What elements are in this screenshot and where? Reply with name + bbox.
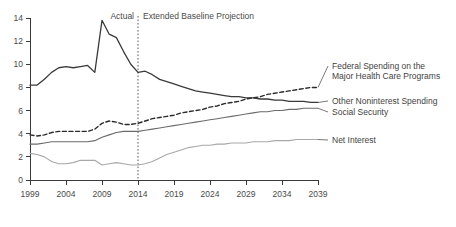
series-lines <box>30 20 318 165</box>
legend-label-1: Federal Spending on the <box>332 61 425 71</box>
x-axis: 199920042009201420192024202920342039 <box>21 180 328 199</box>
legend-label-1: Major Health Care Programs <box>332 71 440 81</box>
y-tick-label: 0 <box>18 175 23 185</box>
y-tick-label: 4 <box>18 129 23 139</box>
legend-leader-line-1 <box>318 66 328 87</box>
chart-container: 02468101214 1999200420092014201920242029… <box>0 0 456 227</box>
x-tick-label: 2004 <box>57 189 76 199</box>
projection-period-label: Extended Baseline Projection <box>143 11 254 21</box>
legend-label-3: Net Interest <box>332 135 377 145</box>
series-line-0 <box>30 20 318 102</box>
x-tick-label: 2039 <box>309 189 328 199</box>
x-tick-label: 2024 <box>201 189 220 199</box>
y-tick-label: 14 <box>14 13 24 23</box>
series-legend: Federal Spending on theMajor Health Care… <box>318 61 440 145</box>
x-tick-label: 2009 <box>93 189 112 199</box>
y-tick-label: 8 <box>18 82 23 92</box>
y-tick-label: 2 <box>18 152 23 162</box>
legend-leader-line-2 <box>318 108 328 112</box>
y-tick-label: 10 <box>14 59 24 69</box>
x-tick-label: 2014 <box>129 189 148 199</box>
legend-leader-line-3 <box>318 140 328 141</box>
legend-leader-line-0 <box>318 101 328 102</box>
series-line-2 <box>30 108 318 144</box>
legend-label-2: Social Security <box>332 107 389 117</box>
x-tick-label: 2029 <box>237 189 256 199</box>
x-tick-label: 2019 <box>165 189 184 199</box>
actual-period-label: Actual <box>110 11 134 21</box>
series-line-1 <box>30 87 318 136</box>
x-tick-label: 1999 <box>21 189 40 199</box>
chart-plot-area: 02468101214 1999200420092014201920242029… <box>0 0 456 227</box>
y-axis: 02468101214 <box>14 13 30 185</box>
period-annotations: ActualExtended Baseline Projection <box>110 11 254 21</box>
legend-label-0: Other Noninterest Spending <box>332 96 438 106</box>
y-tick-label: 6 <box>18 106 23 116</box>
series-line-3 <box>30 140 318 165</box>
y-tick-label: 12 <box>14 36 24 46</box>
x-tick-label: 2034 <box>273 189 292 199</box>
